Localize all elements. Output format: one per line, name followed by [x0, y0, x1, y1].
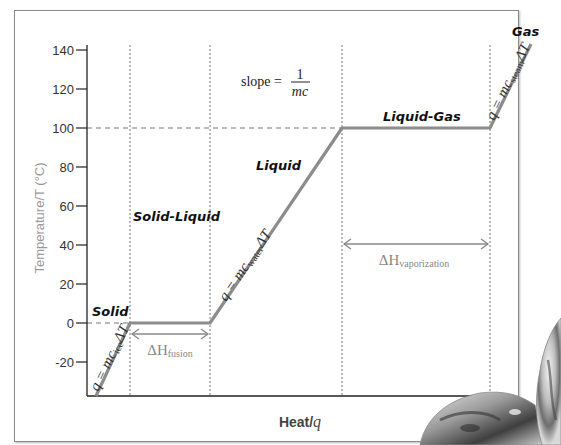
heating-curve-chart: 140 120 100 80 60 40 20 0 -20 Temperatur…: [0, 0, 561, 445]
y-tick-140: 140: [52, 43, 74, 58]
delta-h-fusion-label: ΔHfusion: [147, 342, 192, 359]
slope-annotation: slope = 1 mc: [241, 67, 310, 99]
delta-h-vaporization-label: ΔHvaporization: [379, 252, 449, 269]
y-ticks: [76, 50, 87, 362]
slope-denominator: mc: [292, 84, 309, 99]
x-axis-title: Heat/q: [279, 413, 321, 431]
slope-numerator: 1: [297, 67, 304, 82]
y-tick-20: 20: [60, 277, 74, 292]
phase-label-solid-liquid: Solid-Liquid: [133, 209, 221, 224]
y-tick-neg20: -20: [55, 355, 74, 370]
phase-label-solid: Solid: [92, 304, 129, 319]
phase-label-liquid-gas: Liquid-Gas: [383, 109, 461, 124]
y-tick-100: 100: [52, 121, 74, 136]
y-axis-title: Temperature/T (°C): [32, 162, 47, 273]
equation-ice: q = mciceΔT: [86, 321, 133, 394]
y-tick-120: 120: [52, 82, 74, 97]
vaporization-enthalpy-arrow: [344, 239, 488, 249]
y-tick-60: 60: [60, 199, 74, 214]
fusion-enthalpy-arrow: [132, 329, 208, 339]
y-tick-40: 40: [60, 238, 74, 253]
temperature-guides: [87, 128, 342, 323]
y-tick-0: 0: [67, 316, 74, 331]
phase-label-gas: Gas: [512, 24, 539, 39]
phase-label-liquid: Liquid: [256, 158, 302, 173]
y-tick-80: 80: [60, 160, 74, 175]
y-tick-labels: 140 120 100 80 60 40 20 0 -20: [52, 43, 74, 370]
equation-steam: q = mcsteamΔT: [482, 39, 534, 123]
svg-text:slope =: slope =: [241, 74, 282, 89]
equation-water: q = mcwaterΔT: [215, 225, 276, 304]
